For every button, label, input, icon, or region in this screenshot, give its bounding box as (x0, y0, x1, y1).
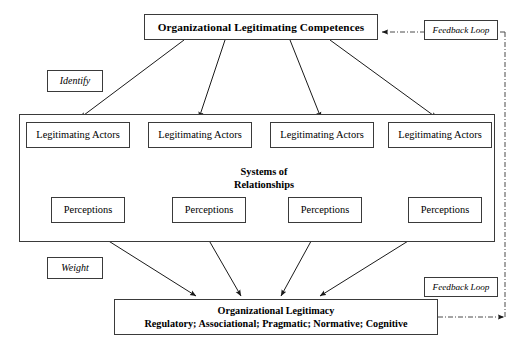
perceptions-box-3: Perceptions (288, 197, 362, 223)
feedback-loop-bottom-label-box: Feedback Loop (424, 277, 498, 297)
legitimating-actors-box-4: Legitimating Actors (388, 122, 492, 148)
arrow-competences-to-actor-2 (290, 40, 321, 118)
diagram-canvas: Systems of Relationships Organizational … (0, 0, 528, 354)
arrow-competences-to-actor-3 (330, 40, 437, 118)
identify-label-box: Identify (47, 70, 103, 92)
arrow-competences-to-actor-1 (199, 40, 225, 118)
organizational-legitimacy-box: Organizational Legitimacy Regulatory; As… (114, 299, 438, 335)
weight-label-box: Weight (47, 257, 103, 279)
organizational-legitimating-competences-box: Organizational Legitimating Competences (144, 14, 378, 40)
legitimating-actors-box-2: Legitimating Actors (148, 122, 252, 148)
feedback-loop-top-label-box: Feedback Loop (424, 20, 498, 40)
organizational-legitimacy-dimensions: Regulatory; Associational; Pragmatic; No… (144, 317, 407, 330)
legitimating-actors-box-1: Legitimating Actors (26, 122, 130, 148)
legitimating-actors-box-3: Legitimating Actors (270, 122, 374, 148)
systems-of-relationships-label: Systems of Relationships (205, 166, 323, 191)
systems-label-line-1: Systems of (205, 166, 323, 179)
organizational-legitimacy-title: Organizational Legitimacy (218, 304, 335, 317)
perceptions-box-4: Perceptions (408, 197, 482, 223)
perceptions-box-1: Perceptions (51, 197, 125, 223)
perceptions-box-2: Perceptions (172, 197, 246, 223)
systems-label-line-2: Relationships (205, 179, 323, 192)
